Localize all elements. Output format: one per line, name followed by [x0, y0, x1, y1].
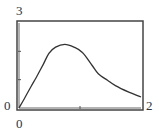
x-max-label: 2 [146, 99, 153, 112]
function-curve [19, 44, 141, 108]
y-max-label: 3 [16, 4, 23, 17]
axis-ticks [18, 51, 80, 109]
x-min-label: 0 [16, 117, 23, 130]
plot-svg [0, 0, 159, 131]
plot-frame [17, 21, 143, 110]
y-min-label: 0 [4, 99, 11, 112]
